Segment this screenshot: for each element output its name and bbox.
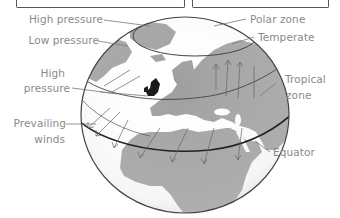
label-high-pressure-top: High pressure (29, 13, 103, 25)
label-temperate: Temperate (258, 31, 315, 43)
label-high-pressure-mid-line1: High (40, 67, 65, 79)
label-low-pressure: Low pressure (28, 34, 99, 46)
leader-high-pressure-top (104, 20, 150, 26)
label-high-pressure-mid-line2: pressure (24, 82, 70, 94)
label-prevailing-winds-line1: Prevailing (14, 117, 66, 129)
label-tropical-zone-line2: zone (286, 89, 311, 101)
label-tropical-zone-line1: Tropical (285, 73, 326, 85)
diagram-stage: High pressure Low pressure High pressure… (0, 0, 340, 218)
label-equator: Equator (273, 146, 315, 158)
label-prevailing-winds-line2: winds (34, 133, 65, 145)
label-polar-zone: Polar zone (250, 13, 305, 25)
